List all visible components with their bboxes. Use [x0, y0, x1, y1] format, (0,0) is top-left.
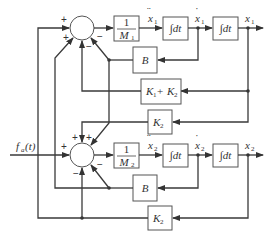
svg-text:2: 2: [251, 145, 255, 153]
label-x1-ddot: x ¨ 1: [147, 5, 158, 26]
damping-block-b-top: B: [133, 47, 157, 73]
svg-text:∫dt: ∫dt: [219, 149, 233, 162]
svg-text:1: 1: [201, 18, 205, 26]
svg-text:2: 2: [131, 161, 135, 169]
svg-text:˙: ˙: [195, 5, 199, 17]
svg-text:B: B: [142, 54, 149, 66]
wire-x1-to-k2-top: [173, 91, 248, 122]
integrator-block-1b: ∫dt: [213, 17, 238, 40]
svg-text:1: 1: [131, 34, 135, 42]
svg-text:2: 2: [174, 91, 178, 99]
svg-text:1: 1: [251, 18, 255, 26]
sign-j1-lower-left: +: [63, 32, 69, 43]
svg-text:∫dt: ∫dt: [169, 22, 183, 35]
sign-j1-bottom: −: [86, 41, 92, 52]
svg-text:2: 2: [154, 145, 158, 153]
spring-block-k2-top: K 2: [148, 110, 172, 134]
sign-j1-left: +: [61, 14, 67, 25]
svg-text:¨: ¨: [147, 5, 151, 17]
wire-k2-top-to-j2: [82, 122, 148, 142]
svg-text:∫dt: ∫dt: [169, 149, 183, 162]
svg-text:˙: ˙: [195, 132, 199, 144]
svg-text:(t): (t): [25, 140, 36, 153]
sign-j1-lower-right: −: [97, 31, 103, 42]
gain-block-1-over-m2: 1 M 2: [114, 143, 139, 169]
sign-j2-lower-right: −: [97, 159, 103, 170]
sign-j2-top: +: [72, 132, 78, 143]
integrator-block-2b: ∫dt: [213, 144, 238, 167]
label-x1-dot: x ˙ 1: [194, 5, 205, 26]
label-x2-ddot: x ¨ 2: [147, 132, 158, 153]
svg-text:+: +: [157, 85, 163, 97]
svg-text:x: x: [244, 12, 250, 24]
svg-text:1: 1: [124, 16, 130, 28]
svg-text:¨: ¨: [147, 132, 151, 144]
svg-text:1: 1: [154, 18, 158, 26]
summing-junction-2: [70, 143, 94, 167]
sign-j2-left: +: [61, 141, 67, 152]
wire-b-top-to-j2: [91, 60, 109, 145]
svg-text:∫dt: ∫dt: [219, 22, 233, 35]
damping-block-b-bottom: B: [133, 175, 157, 201]
integrator-block-1a: ∫dt: [163, 17, 188, 40]
svg-text:x: x: [244, 139, 250, 151]
gain-block-1-over-m1: 1 M 1: [114, 16, 139, 42]
block-diagram: 1 M 1 x ¨ 1 ∫dt x ˙ 1 ∫dt x 1 B: [0, 0, 279, 241]
svg-text:M: M: [118, 156, 129, 168]
spring-block-k2-bottom: K 2: [148, 206, 172, 230]
label-input-fa: f a (t): [16, 140, 36, 154]
summing-junction-1: [70, 16, 94, 40]
svg-text:2: 2: [160, 122, 164, 130]
svg-text:M: M: [118, 29, 129, 41]
label-x2-dot: x ˙ 2: [194, 132, 205, 153]
svg-text:2: 2: [201, 145, 205, 153]
label-x1: x 1: [244, 12, 255, 26]
wire-k2-bottom-to-j1: [38, 28, 82, 218]
sign-j2-bottom: −: [73, 168, 79, 179]
spring-block-k1-plus-k2: K 1 + K 2: [141, 79, 181, 104]
svg-text:B: B: [142, 182, 149, 194]
svg-text:1: 1: [124, 143, 130, 155]
label-x2: x 2: [244, 139, 255, 153]
integrator-block-2a: ∫dt: [163, 144, 188, 167]
svg-text:2: 2: [160, 218, 164, 226]
sign-j2-upper-right: +: [86, 132, 92, 143]
